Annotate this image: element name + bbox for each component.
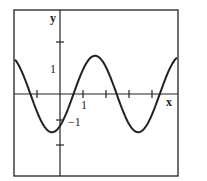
y-tick-label-neg1: −1 bbox=[68, 116, 81, 128]
chart-plot bbox=[0, 0, 207, 181]
y-tick-label-1: 1 bbox=[50, 63, 56, 75]
plot-frame bbox=[14, 10, 178, 176]
x-tick-label-1: 1 bbox=[81, 99, 87, 111]
x-axis-label: x bbox=[166, 96, 172, 108]
y-axis-label: y bbox=[50, 12, 56, 24]
